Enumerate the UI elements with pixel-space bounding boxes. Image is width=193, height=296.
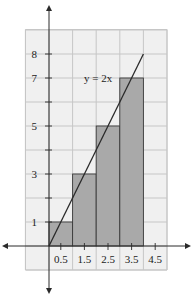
x-tick-label: 2.5 <box>101 253 115 265</box>
riemann-rectangle <box>49 222 73 246</box>
riemann-rectangle <box>120 78 144 246</box>
y-tick-label: 5 <box>32 120 38 132</box>
y-tick-label: 3 <box>32 168 38 180</box>
y-tick-label: 7 <box>32 72 38 84</box>
riemann-sum-figure: 0.51.52.53.54.513578 y = 2x <box>0 0 193 296</box>
x-tick-label: 1.5 <box>78 253 92 265</box>
y-tick-label: 8 <box>32 48 38 60</box>
x-axis-left-arrow-icon <box>2 243 8 249</box>
x-tick-label: 0.5 <box>54 253 68 265</box>
riemann-rectangle <box>73 174 97 246</box>
x-axis-right-arrow-icon <box>185 243 191 249</box>
y-axis-up-arrow-icon <box>46 5 52 11</box>
equation-label: y = 2x <box>84 72 113 84</box>
y-tick-label: 1 <box>32 216 38 228</box>
x-tick-label: 3.5 <box>125 253 139 265</box>
x-tick-label: 4.5 <box>148 253 162 265</box>
y-axis-down-arrow-icon <box>46 288 52 294</box>
